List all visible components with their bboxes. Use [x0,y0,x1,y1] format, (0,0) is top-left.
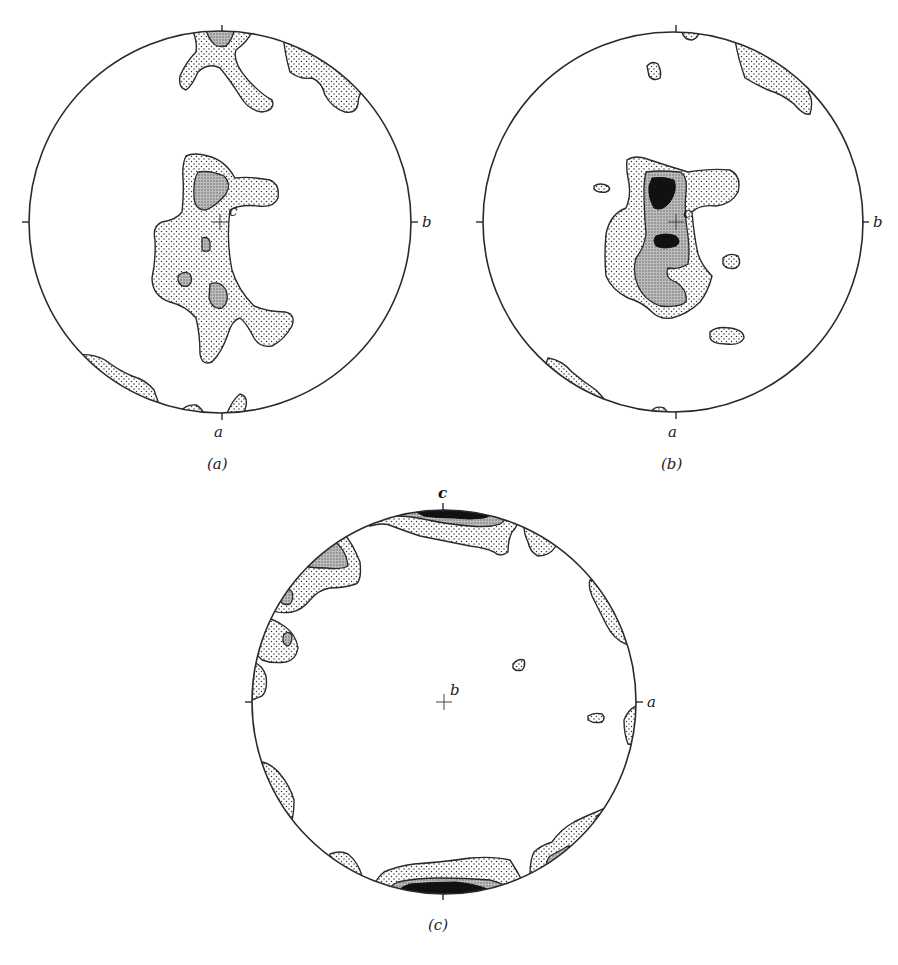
caption-c: (c) [428,916,448,934]
stereonet-panel-a: c b a (a) [22,25,432,473]
center-label-a: c [229,202,238,220]
right-label-b: b [873,213,883,231]
bottom-label-b: a [668,423,677,441]
caption-b: (b) [661,455,682,473]
center-label-b: c [683,204,692,222]
center-label-c: b [450,681,460,699]
right-label-c: a [647,693,656,711]
bottom-label-a: a [214,423,223,441]
stereonet-figure: c b a (a) c b a (b) [0,0,898,965]
top-label-c: c [438,484,447,502]
stereonet-panel-b: c b a (b) [476,25,883,473]
contours-b [530,25,820,416]
right-label-a: b [422,213,432,231]
stereonet-panel-c: b a c (c) [245,484,656,934]
caption-a: (a) [207,455,228,473]
